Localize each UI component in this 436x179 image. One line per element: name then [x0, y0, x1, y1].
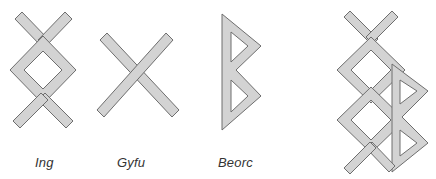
- gyfu-label: Gyfu: [117, 155, 145, 170]
- ing-label: Ing: [35, 155, 54, 170]
- bind-rune-icon: [337, 11, 428, 174]
- rune-diagram: [0, 0, 436, 179]
- ing-rune-icon: [10, 12, 76, 128]
- gyfu-rune-icon: [97, 33, 179, 117]
- beorc-label: Beorc: [218, 155, 253, 170]
- beorc-rune-icon: [222, 14, 261, 130]
